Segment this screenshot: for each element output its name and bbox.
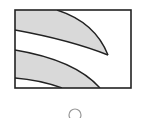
diagram-figure <box>0 0 142 118</box>
shaded-bands <box>15 10 108 88</box>
radio-option-circle[interactable] <box>69 109 81 118</box>
lower-shaded-band <box>15 50 100 88</box>
